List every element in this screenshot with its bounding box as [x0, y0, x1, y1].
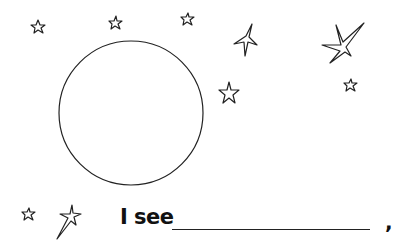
punctuation-comma: ,: [385, 210, 393, 234]
star-icon: [344, 79, 357, 91]
shooting-star-icon: [57, 205, 81, 239]
star-icon: [219, 82, 239, 103]
prompt-text: I see: [120, 205, 174, 229]
star-four-point-icon: [234, 24, 257, 56]
shooting-star-icon: [322, 23, 364, 63]
worksheet-illustration: [0, 0, 403, 247]
star-icon: [109, 16, 122, 29]
star-icon: [22, 208, 35, 220]
star-icon: [181, 13, 194, 25]
moon-circle: [59, 41, 203, 185]
answer-blank-line[interactable]: [172, 229, 370, 230]
star-icon: [31, 20, 45, 33]
